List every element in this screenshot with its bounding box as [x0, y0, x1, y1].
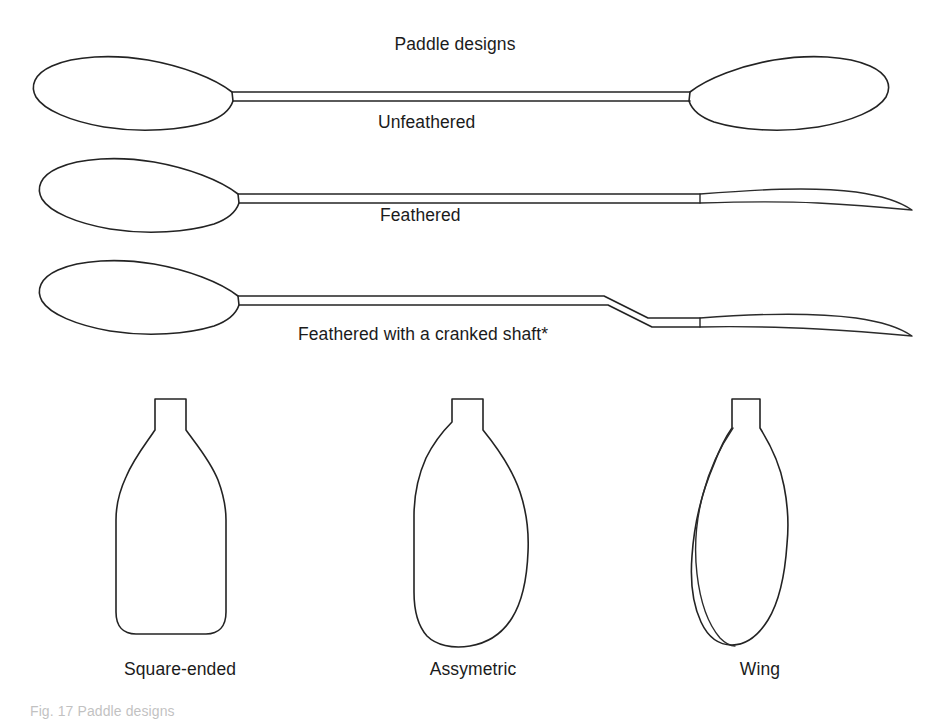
square-ended-outline [116, 399, 226, 634]
wing-inner-curve [696, 428, 735, 646]
cranked-left-blade [39, 261, 239, 335]
feathered-left-blade [39, 159, 239, 233]
blade-assymetric [414, 399, 528, 647]
label-assymetric: Assymetric [430, 661, 517, 679]
label-wing: Wing [740, 661, 780, 679]
unfeathered-right-blade [689, 57, 889, 131]
cranked-shaft-top [238, 296, 700, 318]
cranked-right-blade-edge-on [700, 314, 912, 336]
label-unfeathered: Unfeathered [378, 114, 475, 132]
unfeathered-left-blade [33, 57, 233, 131]
assymetric-outline [414, 399, 528, 647]
paddle-feathered [39, 159, 912, 233]
figure-caption: Fig. 17 Paddle designs [30, 703, 175, 719]
feathered-right-blade-edge-on [700, 189, 912, 210]
figure-title: Paddle designs [394, 36, 515, 54]
wing-outline [691, 399, 788, 645]
blade-wing [691, 399, 788, 646]
label-square-ended: Square-ended [124, 661, 236, 679]
blade-square-ended [116, 399, 226, 634]
label-feathered: Feathered [380, 207, 461, 225]
label-feathered-cranked-shaft: Feathered with a cranked shaft* [298, 326, 548, 344]
